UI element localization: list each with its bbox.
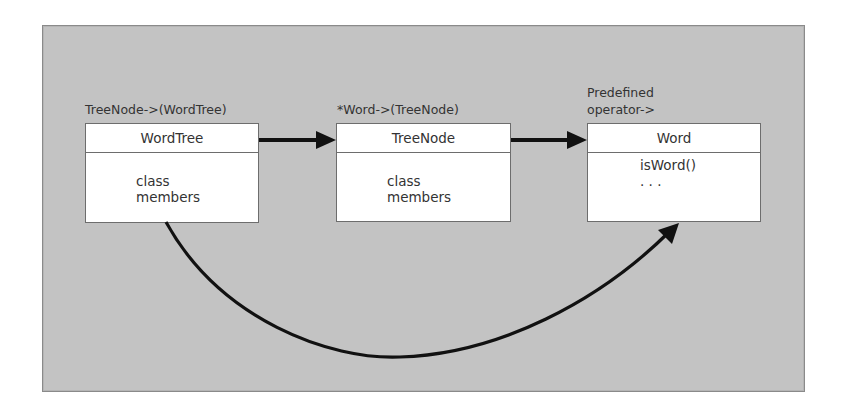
curved-arrow-wordtree-to-word — [166, 222, 679, 357]
arrow-treenode-to-word — [511, 131, 587, 149]
arrow-wordtree-to-treenode — [259, 131, 336, 149]
arrows-layer — [0, 0, 847, 418]
